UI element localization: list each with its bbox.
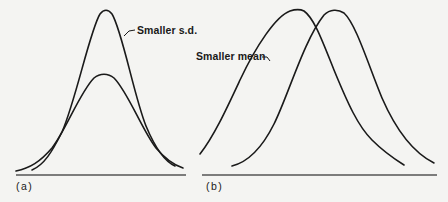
panel-a-wide-curve (16, 74, 183, 171)
panel-a-annotation-leader (124, 30, 135, 36)
panel-a-annotation: Smaller s.d. (137, 24, 197, 36)
panel-a-label: (a) (16, 180, 33, 192)
panel-b-annotation: Smaller mean (196, 50, 266, 62)
panel-b-right-curve (232, 10, 434, 166)
normal-distribution-comparison-figure: Smaller s.d. (a) Smaller mean (b) (0, 0, 448, 202)
panel-b: Smaller mean (b) (196, 10, 437, 193)
panel-a: Smaller s.d. (a) (16, 10, 197, 192)
panel-b-label: (b) (206, 180, 223, 192)
panel-b-left-curve-smaller-mean (200, 10, 404, 166)
